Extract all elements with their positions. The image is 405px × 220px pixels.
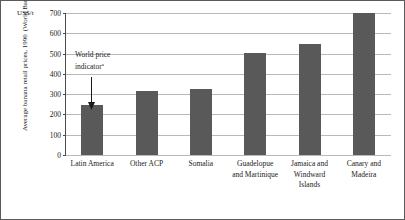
y-tick-label: 200: [39, 110, 61, 119]
annotation-superscript: a: [102, 62, 104, 67]
bar: [81, 105, 103, 155]
gridline: [65, 74, 391, 75]
x-tick-label-line: Madeira: [331, 170, 397, 181]
gridline: [65, 94, 391, 95]
bar: [190, 89, 212, 155]
bar: [136, 91, 158, 155]
annotation-line2: indicator: [75, 62, 102, 71]
y-tick-mark: [63, 54, 66, 55]
gridline: [65, 135, 391, 136]
y-tick-mark: [63, 94, 66, 95]
y-tick-mark: [63, 33, 66, 34]
y-axis-title-line1: Average banana retail prices, 1990: [21, 34, 29, 131]
y-tick-label: 500: [39, 49, 61, 58]
bar: [244, 53, 266, 155]
plot-area: [65, 13, 391, 155]
gridline: [65, 13, 391, 14]
annotation-line1: World price: [75, 49, 110, 61]
y-tick-label: 0: [39, 151, 61, 160]
y-tick-label: 600: [39, 29, 61, 38]
bar: [353, 13, 375, 155]
x-tick-label: Canary andMadeira: [331, 159, 397, 180]
gridline: [65, 114, 391, 115]
y-tick-label: 700: [39, 9, 61, 18]
annotation-line2-wrap: indicatora: [75, 61, 110, 73]
unit-label: US$/t: [17, 9, 34, 17]
y-tick-label: 300: [39, 90, 61, 99]
y-tick-labels: 0100200300400500600700: [37, 13, 61, 155]
annotation-label: World price indicatora: [75, 49, 110, 73]
y-tick-mark: [63, 114, 66, 115]
y-tick-mark: [63, 155, 66, 156]
y-tick-label: 100: [39, 130, 61, 139]
chart-figure: US$/t Average banana retail prices, 1990…: [0, 0, 405, 220]
y-tick-mark: [63, 135, 66, 136]
y-tick-mark: [63, 13, 66, 14]
bar: [299, 44, 321, 155]
y-tick-mark: [63, 74, 66, 75]
x-tick-label-line: Canary and: [331, 159, 397, 170]
annotation-arrow-icon: [87, 77, 96, 111]
y-tick-label: 400: [39, 69, 61, 78]
gridline: [65, 155, 391, 156]
gridline: [65, 33, 391, 34]
x-tick-labels: Latin AmericaOther ACPSomaliaGuadelopuea…: [65, 159, 391, 217]
gridline: [65, 54, 391, 55]
x-tick-label-line: Islands: [276, 180, 342, 191]
